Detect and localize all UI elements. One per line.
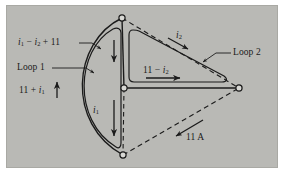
- node-top: [119, 15, 125, 21]
- branch-vertical-trunk: [122, 18, 124, 88]
- label-loop-2: Loop 2: [233, 48, 261, 58]
- branch-bottom-to-right: [123, 88, 239, 155]
- label-11-plus-i1: 11 + i1: [19, 86, 45, 96]
- node-center: [121, 85, 127, 91]
- node-bottom: [120, 152, 126, 158]
- figure-page: i1 − i2 + 11 Loop 1 11 + i1 i1 11 − i2 i…: [0, 0, 284, 175]
- leader-loop1: [52, 68, 94, 73]
- branch-center-to-bottom: [123, 88, 124, 155]
- leader-lines: [52, 43, 231, 73]
- label-loop-1: Loop 1: [17, 63, 45, 73]
- label-i1-minus-i2-plus-11: i1 − i2 + 11: [18, 38, 60, 48]
- branch-left-arc: [82, 18, 123, 155]
- label-11-minus-i2: 11 − i2: [143, 66, 169, 76]
- leader-i1mi2p11: [79, 43, 101, 49]
- node-right: [236, 85, 242, 91]
- loop-1-path: [84, 28, 121, 148]
- solid-branches: [82, 18, 239, 155]
- label-11-amps: 11 A: [186, 133, 204, 143]
- label-i1: i1: [93, 106, 99, 116]
- label-i2: i2: [176, 31, 182, 41]
- leader-loop2: [203, 53, 231, 62]
